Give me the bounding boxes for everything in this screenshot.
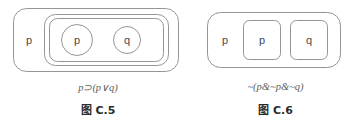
formula-c5: p⊃(p∨q) [0,81,196,93]
inner-box-label-p: p [259,34,265,46]
figure-panel-left: p p q p⊃(p∨q) 图 C.5 [0,0,196,125]
outer-region-label-p: p [222,34,228,46]
figure-panel-right: p p q ~(p&~p&~q) 图 C.6 [196,0,355,125]
inner-circle-label-p: p [74,34,80,46]
inner-box-label-q: q [306,34,312,46]
formula-c6: ~(p&~p&~q) [196,81,355,92]
inner-circle-label-q: q [124,34,130,46]
caption-c5: 图 C.5 [0,101,196,117]
outer-region-label-p: p [26,34,32,46]
diagram-c6: p p q [196,0,355,80]
outer-region-p [14,9,179,72]
middle-region-inner [50,19,164,62]
diagram-c5: p p q [0,0,196,80]
caption-c6: 图 C.6 [196,101,355,117]
logic-diagram-figure: p p q p⊃(p∨q) 图 C.5 p p q ~(p&~p&~q) 图 C… [0,0,355,125]
middle-region-outer [45,15,169,66]
